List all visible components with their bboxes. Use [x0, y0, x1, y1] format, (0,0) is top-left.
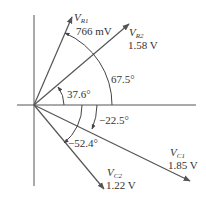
label-vr2: VR2 1.58 V — [128, 26, 158, 51]
label-vc2: VC2 1.22 V — [106, 166, 136, 191]
label-vc1: VC1 1.85 V — [168, 146, 198, 171]
svg-text:VC1: VC1 — [170, 146, 185, 160]
svg-text:VR2: VR2 — [129, 26, 144, 40]
angle-label-37-6: 37.6° — [67, 88, 91, 100]
angle-label-neg-52-4: −52.4° — [68, 137, 98, 149]
magnitude-vr2: 1.58 V — [128, 39, 158, 51]
phasor-diagram: VR1 766 mV VR2 1.58 V VC1 1.85 V VC2 1.2… — [0, 0, 206, 203]
arc-37-6 — [58, 87, 64, 105]
magnitude-vc2: 1.22 V — [106, 179, 136, 191]
magnitude-vr1: 766 mV — [76, 25, 112, 37]
svg-text:VR1: VR1 — [74, 11, 89, 25]
svg-text:VC2: VC2 — [107, 166, 122, 180]
label-vr1: VR1 766 mV — [74, 11, 112, 37]
magnitude-vc1: 1.85 V — [168, 159, 198, 171]
angle-label-neg-22-5: −22.5° — [99, 114, 129, 126]
angle-label-67-5: 67.5° — [111, 73, 135, 85]
arc-neg-22-5 — [92, 105, 97, 129]
